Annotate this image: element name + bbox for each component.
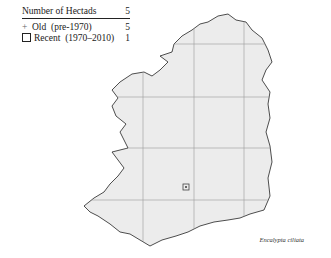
legend-item-recent: Recent (1970–2010) 1 [22, 33, 130, 44]
legend-label: Recent (1970–2010) [34, 33, 114, 43]
species-caption: Encalypta ciliata [259, 236, 304, 243]
legend: Number of Hectads 5 +Old (pre-1970) 5 Re… [22, 6, 130, 44]
legend-count: 1 [125, 33, 130, 44]
legend-total: 5 [125, 6, 130, 17]
legend-item-old: +Old (pre-1970) 5 [22, 22, 130, 33]
legend-label: Old (pre-1970) [32, 22, 92, 32]
legend-title: Number of Hectads [22, 6, 96, 17]
plus-icon: + [22, 22, 32, 33]
legend-count: 5 [125, 22, 130, 33]
square-icon [22, 33, 31, 42]
legend-header: Number of Hectads 5 [22, 6, 130, 19]
